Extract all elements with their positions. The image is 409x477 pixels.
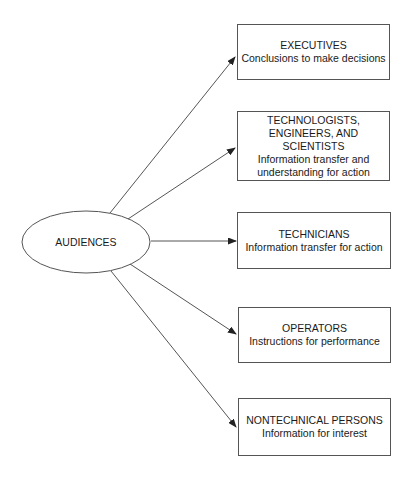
nontechnical-description: Information for interest [262,427,367,440]
executives-box: EXECUTIVES Conclusions to make decisions [237,24,390,80]
operators-title: OPERATORS [282,322,347,335]
technologists-title-line1: TECHNOLOGISTS, [267,114,360,127]
technicians-box: TECHNICIANS Information transfer for act… [237,212,391,269]
nontechnical-title: NONTECHNICAL PERSONS [246,414,383,427]
operators-box: OPERATORS Instructions for performance [238,307,391,363]
technologists-box: TECHNOLOGISTS, ENGINEERS, AND SCIENTISTS… [237,111,390,181]
executives-description: Conclusions to make decisions [241,52,385,65]
audiences-label: AUDIENCES [22,211,150,273]
technologists-description-line1: Information transfer and [258,153,369,166]
audiences-label-text: AUDIENCES [55,236,116,248]
arrow-to-technologists [128,148,235,219]
technicians-description: Information transfer for action [245,241,382,254]
nontechnical-box: NONTECHNICAL PERSONS Information for int… [238,398,391,456]
executives-title: EXECUTIVES [280,39,347,52]
technologists-title-line2: ENGINEERS, AND SCIENTISTS [238,127,389,153]
technicians-title: TECHNICIANS [278,228,349,241]
arrow-to-operators [130,264,236,334]
arrow-to-nontechnical [111,271,236,427]
technologists-description-line2: understanding for action [257,166,370,179]
operators-description: Instructions for performance [249,335,380,348]
